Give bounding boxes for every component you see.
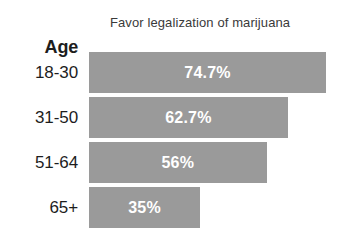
category-label: 65+ [0,187,78,228]
category-label: 18-30 [0,52,78,93]
bar-track: 74.7% [89,52,345,93]
bar-chart: Favor legalization of marijuana Age 18-3… [0,0,345,250]
bar[interactable]: 74.7% [89,52,326,93]
bar-value-label: 56% [162,154,195,172]
bar[interactable]: 35% [89,187,200,228]
bar-row: 51-64 56% [0,142,345,183]
category-label: 31-50 [0,97,78,138]
chart-title: Favor legalization of marijuana [110,15,290,30]
bar[interactable]: 56% [89,142,267,183]
bar-track: 62.7% [89,97,345,138]
bar-track: 56% [89,142,345,183]
bar-value-label: 62.7% [165,109,211,127]
bar-value-label: 74.7% [184,64,230,82]
bar[interactable]: 62.7% [89,97,288,138]
bar-row: 18-30 74.7% [0,52,345,93]
bar-track: 35% [89,187,345,228]
bar-value-label: 35% [128,199,161,217]
bar-row: 65+ 35% [0,187,345,228]
plot-area: 18-30 74.7% 31-50 62.7% 51-64 56% [0,52,345,232]
category-label: 51-64 [0,142,78,183]
bar-row: 31-50 62.7% [0,97,345,138]
